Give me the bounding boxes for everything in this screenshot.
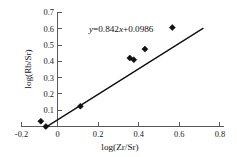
equation-slope: =0.842 bbox=[93, 24, 119, 34]
chart-figure: -0.2 0 0.2 0.4 0.6 0.8 0.1 0.2 0.3 0.4 0… bbox=[0, 0, 237, 157]
scatter-plot: -0.2 0 0.2 0.4 0.6 0.8 0.1 0.2 0.3 0.4 0… bbox=[0, 0, 237, 157]
x-axis-tick-labels: -0.2 0 0.2 0.4 0.6 0.8 bbox=[15, 130, 225, 139]
regression-line-group bbox=[45, 28, 203, 127]
y-tick-label: 0.3 bbox=[44, 74, 54, 83]
y-tick-label: 0.5 bbox=[44, 41, 54, 50]
data-point bbox=[169, 25, 175, 31]
data-point bbox=[43, 124, 49, 130]
y-tick-label: 0.4 bbox=[44, 57, 55, 66]
equation-annotation: y=0.842x+0.0986 bbox=[88, 24, 154, 34]
data-points-group bbox=[38, 25, 176, 130]
y-tick-label: 0.2 bbox=[44, 90, 54, 99]
y-axis-ticks bbox=[58, 12, 63, 110]
y-axis-title: log(Rb/Sr) bbox=[23, 49, 33, 88]
y-axis-tick-labels: 0.1 0.2 0.3 0.4 0.5 0.6 0.7 bbox=[44, 8, 55, 115]
x-tick-label: -0.2 bbox=[15, 130, 28, 139]
x-tick-label: 0.6 bbox=[174, 130, 184, 139]
y-tick-label: 0.7 bbox=[44, 8, 54, 17]
data-point bbox=[142, 46, 148, 52]
data-point bbox=[38, 118, 44, 124]
x-tick-label: 0.8 bbox=[215, 130, 225, 139]
x-tick-label: 0.2 bbox=[93, 130, 103, 139]
x-tick-label: 0 bbox=[55, 130, 59, 139]
x-tick-label: 0.4 bbox=[133, 130, 144, 139]
x-axis-title: log(Zr/Sr) bbox=[101, 142, 138, 152]
svg-text:y=0.842x+0.0986: y=0.842x+0.0986 bbox=[88, 24, 154, 34]
equation-intercept: +0.0986 bbox=[123, 24, 154, 34]
y-tick-label: 0.6 bbox=[44, 25, 54, 34]
axis-titles: log(Zr/Sr) log(Rb/Sr) bbox=[23, 49, 139, 152]
regression-line bbox=[45, 28, 203, 127]
y-tick-label: 0.1 bbox=[44, 106, 54, 115]
